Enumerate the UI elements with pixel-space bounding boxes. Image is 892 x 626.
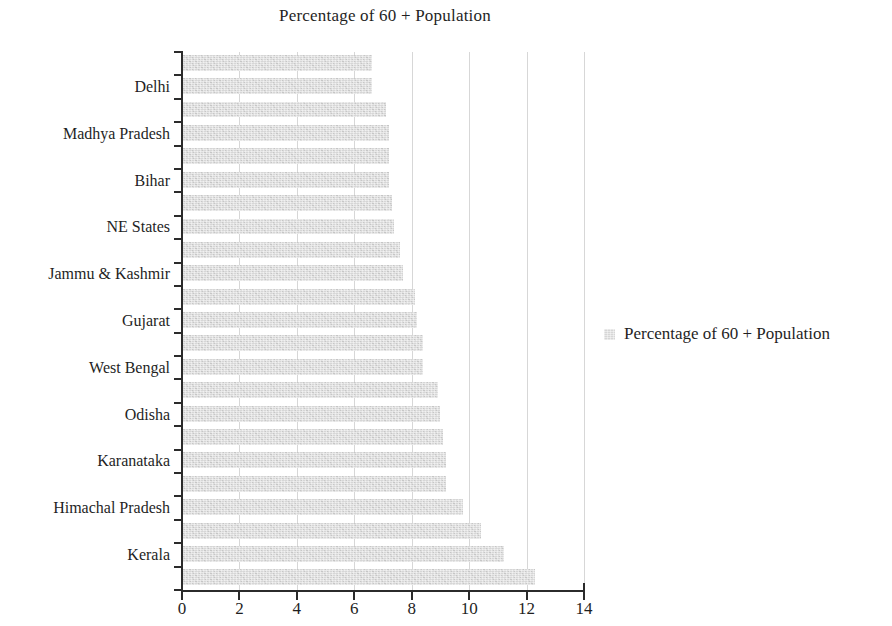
y-axis-tick — [174, 402, 182, 404]
bar[interactable] — [182, 476, 446, 492]
bar-row — [182, 356, 584, 379]
bar[interactable] — [182, 335, 423, 351]
y-axis-tick — [174, 238, 182, 240]
bar-row — [182, 239, 584, 262]
y-axis-label-kerala: Kerala — [0, 547, 170, 563]
chart-legend: Percentage of 60 + Population — [604, 324, 830, 344]
y-axis-line — [181, 51, 183, 591]
y-axis-label-ne-states: NE States — [0, 219, 170, 235]
x-axis-label-10: 10 — [449, 600, 489, 617]
bar[interactable] — [182, 406, 440, 422]
y-axis-tick — [174, 332, 182, 334]
bar[interactable] — [182, 265, 403, 281]
bar-row — [182, 403, 584, 426]
bar[interactable] — [182, 382, 438, 398]
bar-row — [182, 263, 584, 286]
x-axis-label-8: 8 — [392, 600, 432, 617]
x-axis-label-12: 12 — [507, 600, 547, 617]
bar-row — [182, 192, 584, 215]
y-axis-tick — [174, 121, 182, 123]
bar-row — [182, 567, 584, 590]
bar-row — [182, 286, 584, 309]
bar-row — [182, 379, 584, 402]
y-axis-tick — [174, 472, 182, 474]
y-axis-label-delhi: Delhi — [0, 79, 170, 95]
y-axis-tick — [174, 215, 182, 217]
x-axis-line — [181, 590, 585, 592]
legend-label: Percentage of 60 + Population — [624, 324, 830, 344]
y-axis-label-odisha: Odisha — [0, 407, 170, 423]
y-axis-tick — [174, 355, 182, 357]
y-axis-tick — [174, 285, 182, 287]
y-axis-tick — [174, 542, 182, 544]
y-axis-label-karanataka: Karanataka — [0, 453, 170, 469]
y-axis-tick — [174, 51, 182, 53]
bar[interactable] — [182, 125, 389, 141]
legend-swatch-icon — [604, 329, 615, 340]
y-axis-tick — [174, 262, 182, 264]
bar[interactable] — [182, 569, 535, 585]
y-axis-tick — [174, 449, 182, 451]
bar-row — [182, 75, 584, 98]
bar[interactable] — [182, 55, 372, 71]
bar[interactable] — [182, 499, 463, 515]
y-axis-tick — [174, 566, 182, 568]
bar-chart-figure: Percentage of 60 + Population DelhiMadhy… — [0, 0, 892, 626]
y-axis-tick — [174, 98, 182, 100]
bar-row — [182, 450, 584, 473]
bar[interactable] — [182, 78, 372, 94]
x-axis-label-0: 0 — [162, 600, 202, 617]
bar[interactable] — [182, 219, 394, 235]
bar[interactable] — [182, 102, 386, 118]
bar-row — [182, 52, 584, 75]
bar[interactable] — [182, 242, 400, 258]
y-axis-label-jammu-kashmir: Jammu & Kashmir — [0, 266, 170, 282]
bar-row — [182, 333, 584, 356]
bar-row — [182, 543, 584, 566]
bar[interactable] — [182, 452, 446, 468]
bar[interactable] — [182, 195, 392, 211]
x-axis-label-4: 4 — [277, 600, 317, 617]
bar[interactable] — [182, 148, 389, 164]
bar[interactable] — [182, 289, 415, 305]
x-axis-label-14: 14 — [564, 600, 604, 617]
y-axis-label-bihar: Bihar — [0, 173, 170, 189]
y-axis-tick — [174, 589, 182, 591]
bar-row — [182, 146, 584, 169]
x-axis-label-2: 2 — [219, 600, 259, 617]
y-axis-tick — [174, 425, 182, 427]
bar[interactable] — [182, 523, 481, 539]
bar[interactable] — [182, 312, 417, 328]
bar-row — [182, 309, 584, 332]
bar-row — [182, 473, 584, 496]
y-axis-tick — [174, 74, 182, 76]
x-axis-right-cap — [583, 583, 585, 591]
bar-row — [182, 426, 584, 449]
bar[interactable] — [182, 546, 504, 562]
y-axis-tick — [174, 378, 182, 380]
bar-row — [182, 216, 584, 239]
x-axis-label-6: 6 — [334, 600, 374, 617]
y-axis-tick — [174, 191, 182, 193]
bar-row — [182, 99, 584, 122]
y-axis-label-gujarat: Gujarat — [0, 313, 170, 329]
bar[interactable] — [182, 172, 389, 188]
bar[interactable] — [182, 429, 443, 445]
y-axis-tick — [174, 145, 182, 147]
bar-series — [182, 52, 584, 590]
y-axis-tick — [174, 495, 182, 497]
y-axis-tick — [174, 519, 182, 521]
y-axis-label-madhya-pradesh: Madhya Pradesh — [0, 126, 170, 142]
bar-row — [182, 496, 584, 519]
bar-row — [182, 122, 584, 145]
y-axis-label-himachal-pradesh: Himachal Pradesh — [0, 500, 170, 516]
y-axis-label-west-bengal: West Bengal — [0, 360, 170, 376]
plot-area — [182, 52, 584, 590]
y-axis-tick — [174, 308, 182, 310]
gridline-x-14 — [584, 52, 585, 590]
y-axis-tick — [174, 168, 182, 170]
bar-row — [182, 169, 584, 192]
bar-row — [182, 520, 584, 543]
chart-title: Percentage of 60 + Population — [0, 6, 770, 26]
bar[interactable] — [182, 359, 423, 375]
